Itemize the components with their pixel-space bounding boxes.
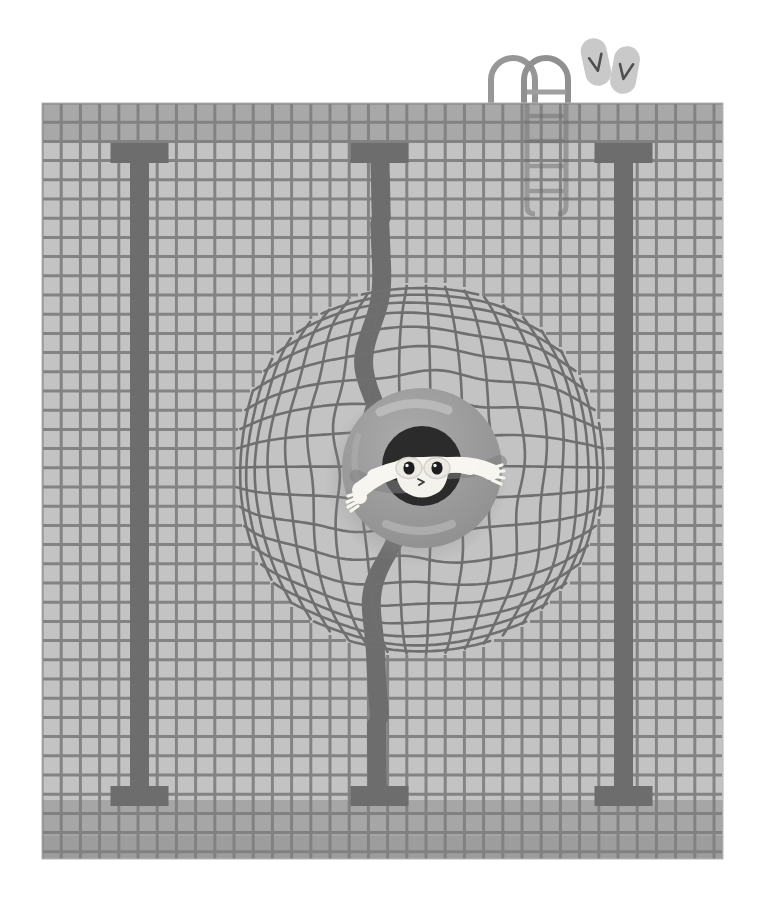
pool-illustration-svg — [0, 0, 761, 919]
illustration-scene — [0, 0, 761, 919]
artboard — [0, 0, 761, 919]
